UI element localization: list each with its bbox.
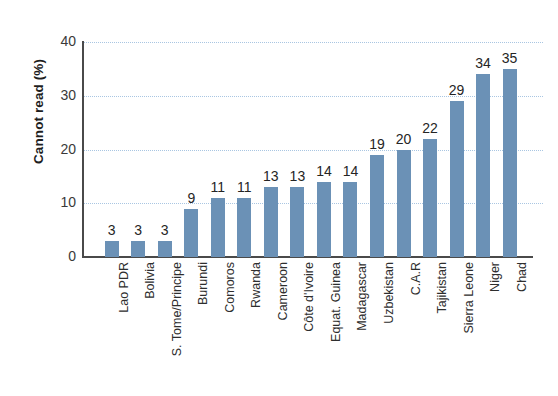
bar[interactable]	[343, 182, 357, 257]
bar[interactable]	[184, 209, 198, 257]
bar-slot: 3	[152, 42, 179, 257]
bars-group: 3339111113131414192022293435	[82, 42, 533, 257]
x-slot: Lao PDR	[98, 260, 125, 390]
x-slot: Burundi	[178, 260, 205, 390]
bar-value-label: 14	[343, 163, 359, 179]
x-slot: S. Tome/Principe	[152, 260, 179, 390]
bar[interactable]	[264, 187, 278, 257]
x-slot: C.A.R	[390, 260, 417, 390]
bar[interactable]	[503, 69, 517, 257]
x-slot: Côte d'Ivoire	[284, 260, 311, 390]
x-slot: Chad	[496, 260, 523, 390]
bar[interactable]	[450, 101, 464, 257]
bar[interactable]	[476, 74, 490, 257]
bar-slot: 19	[364, 42, 391, 257]
bar[interactable]	[158, 241, 172, 257]
bar[interactable]	[423, 139, 437, 257]
y-tick-label: 40	[42, 33, 76, 49]
bar[interactable]	[131, 241, 145, 257]
bar-slot: 3	[98, 42, 125, 257]
x-slot: Cameroon	[258, 260, 285, 390]
bar[interactable]	[211, 198, 225, 257]
bar-slot: 35	[496, 42, 523, 257]
bar-slot: 14	[311, 42, 338, 257]
x-tick-label: Chad	[515, 262, 529, 292]
x-slot: Equat. Guinea	[311, 260, 338, 390]
bar-value-label: 29	[449, 82, 465, 98]
x-slot: Sierra Leone	[443, 260, 470, 390]
bar-slot: 11	[205, 42, 232, 257]
bar-value-label: 14	[316, 163, 332, 179]
bar-slot: 13	[258, 42, 285, 257]
x-slot: Madagascar	[337, 260, 364, 390]
bar-slot: 29	[443, 42, 470, 257]
bar-slot: 9	[178, 42, 205, 257]
bar-slot: 22	[417, 42, 444, 257]
bar[interactable]	[237, 198, 251, 257]
y-tick-label: 0	[42, 248, 76, 264]
x-slot: Comoros	[205, 260, 232, 390]
bar-slot: 20	[390, 42, 417, 257]
y-tick-label: 30	[42, 87, 76, 103]
bar-value-label: 11	[237, 179, 252, 195]
bar-slot: 34	[470, 42, 497, 257]
bar[interactable]	[370, 155, 384, 257]
bar-slot: 11	[231, 42, 258, 257]
bar-slot: 3	[125, 42, 152, 257]
x-slot: Rwanda	[231, 260, 258, 390]
x-slot: Bolivia	[125, 260, 152, 390]
bar[interactable]	[397, 150, 411, 258]
y-axis-tick-labels: 010203040	[40, 42, 76, 257]
bar-value-label: 20	[396, 131, 412, 147]
chart-figure: Cannot read (%) 010203040 33391111131314…	[0, 0, 558, 396]
bar-value-label: 35	[502, 50, 518, 66]
bar-slot: 14	[337, 42, 364, 257]
x-axis-tick-labels: Lao PDRBoliviaS. Tome/PrincipeBurundiCom…	[82, 260, 533, 390]
bar-value-label: 22	[422, 120, 438, 136]
bar[interactable]	[105, 241, 119, 257]
bar-slot: 13	[284, 42, 311, 257]
bar[interactable]	[290, 187, 304, 257]
bar-value-label: 3	[161, 222, 169, 238]
bar-value-label: 3	[134, 222, 142, 238]
bar-value-label: 13	[263, 168, 279, 184]
x-slot: Uzbekistan	[364, 260, 391, 390]
y-tick-label: 20	[42, 141, 76, 157]
bar-value-label: 13	[290, 168, 306, 184]
bar-value-label: 3	[108, 222, 116, 238]
bar-value-label: 11	[211, 179, 226, 195]
bar-value-label: 19	[369, 136, 385, 152]
x-slot: Niger	[470, 260, 497, 390]
x-slot: Tajikistan	[417, 260, 444, 390]
bar-value-label: 9	[187, 190, 195, 206]
bar-value-label: 34	[475, 55, 491, 71]
bar[interactable]	[317, 182, 331, 257]
y-tick-label: 10	[42, 194, 76, 210]
